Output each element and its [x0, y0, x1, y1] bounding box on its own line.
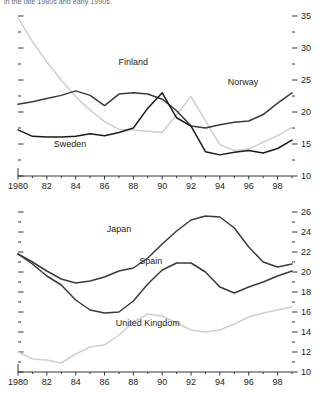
line-chart-top: 1980828486889092949698101520253035Finlan… [0, 8, 333, 196]
x-tick-label: 88 [128, 181, 138, 191]
series-line-united-kingdom [18, 307, 292, 363]
y-tick-label: 14 [301, 327, 311, 337]
x-tick-label: 1980 [8, 181, 28, 191]
series-label-norway: Norway [228, 77, 259, 87]
y-tick-label: 16 [301, 307, 311, 317]
x-tick-label: 86 [100, 377, 110, 387]
x-tick-label: 98 [273, 181, 283, 191]
chart-panel-bottom: 1980828486889092949698101214161820222426… [0, 204, 333, 393]
y-tick-label: 30 [301, 43, 311, 53]
x-tick-label: 94 [215, 181, 225, 191]
series-line-japan [18, 216, 292, 283]
caption-fragment: in the late 1980s and early 1990s. [4, 0, 264, 8]
y-tick-label: 10 [301, 171, 311, 181]
chart-panel-top: 1980828486889092949698101520253035Finlan… [0, 8, 333, 196]
x-tick-label: 88 [128, 377, 138, 387]
series-label-united-kingdom: United Kingdom [116, 318, 180, 328]
x-tick-label: 94 [215, 377, 225, 387]
series-line-norway [18, 91, 292, 128]
y-tick-label: 12 [301, 347, 311, 357]
series-label-sweden: Sweden [54, 139, 87, 149]
y-tick-label: 26 [301, 207, 311, 217]
x-tick-label: 1980 [8, 377, 28, 387]
series-label-spain: Spain [139, 256, 162, 266]
y-tick-label: 20 [301, 267, 311, 277]
x-tick-label: 98 [273, 377, 283, 387]
y-tick-label: 35 [301, 11, 311, 21]
y-tick-label: 10 [301, 367, 311, 377]
series-label-japan: Japan [107, 224, 132, 234]
x-tick-label: 90 [157, 377, 167, 387]
x-tick-label: 84 [71, 377, 81, 387]
x-tick-label: 92 [186, 181, 196, 191]
x-tick-label: 96 [244, 377, 254, 387]
y-tick-label: 20 [301, 107, 311, 117]
x-tick-label: 82 [42, 181, 52, 191]
y-tick-label: 22 [301, 247, 311, 257]
x-tick-label: 82 [42, 377, 52, 387]
y-tick-label: 25 [301, 75, 311, 85]
x-tick-label: 84 [71, 181, 81, 191]
line-chart-bottom: 1980828486889092949698101214161820222426… [0, 204, 333, 393]
x-tick-label: 96 [244, 181, 254, 191]
series-label-finland: Finland [119, 57, 149, 67]
y-tick-label: 15 [301, 139, 311, 149]
y-tick-label: 18 [301, 287, 311, 297]
x-tick-label: 92 [186, 377, 196, 387]
y-tick-label: 24 [301, 227, 311, 237]
x-tick-label: 90 [157, 181, 167, 191]
x-tick-label: 86 [100, 181, 110, 191]
